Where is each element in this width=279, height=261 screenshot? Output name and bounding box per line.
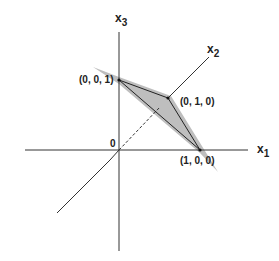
label-001: (0, 0, 1) [79,74,113,85]
label-010: (0, 1, 0) [180,96,214,107]
x2-label: x2 [207,42,220,59]
diagram-canvas: x3 x2 x1 0 (0, 0, 1) (0, 1, 0) (1, 0, 0) [0,0,279,261]
origin-label: 0 [110,138,116,149]
edge-001-100 [119,80,200,150]
x2-axis-hidden [119,107,160,150]
x2-axis-upper [168,57,209,98]
x1-label: x1 [257,142,270,159]
label-100: (1, 0, 0) [180,155,214,166]
x3-label: x3 [115,11,128,28]
vertex-100 [198,148,201,151]
vertex-010 [166,96,169,99]
x2-axis-origin-seg [110,150,119,160]
x2-axis [57,160,110,213]
vertex-001 [117,78,120,81]
